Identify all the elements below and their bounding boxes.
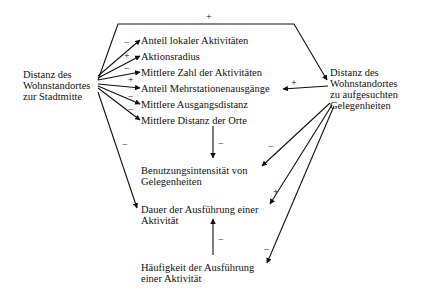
edge-sign: − (218, 234, 224, 245)
edge-sign: + (273, 186, 279, 197)
edge-sign: + (124, 50, 130, 61)
edge-sign: − (122, 139, 128, 150)
edge-dist_center-to-list-1 (98, 56, 140, 78)
diagram-canvas: +−+−+−−+−−−+−− Distanz des Wohnstandorte… (0, 0, 426, 295)
list-item-local-activities: Anteil lokaler Aktivitäten (141, 35, 248, 46)
list-item-multi-stop-share: Anteil Mehrstationenausgänge (141, 83, 270, 94)
edge-sign: − (128, 91, 134, 102)
edge-dist_opps-to-list-3 (283, 86, 328, 89)
list-item-avg-place-distance: Mittlere Distanz der Orte (141, 115, 247, 126)
edge-dist_opps-to-usage (262, 103, 330, 166)
edge-sign: − (218, 138, 224, 149)
node-activity-duration: Dauer der Ausführung einer Aktivität (141, 204, 259, 226)
edge-sign: − (264, 244, 270, 255)
edge-sign: − (124, 63, 130, 74)
edge-dist_center-to-list-4 (98, 86, 140, 104)
edge-dist_center-to-list-2 (98, 72, 140, 80)
edge-dist_center-to-list-5 (98, 88, 140, 120)
edge-dist_center-to-list-0 (98, 40, 140, 76)
edge-dist_opps-to-duration (270, 105, 332, 204)
edge-sign: + (291, 77, 297, 88)
list-item-avg-trip-distance: Mittlere Ausgangsdistanz (141, 99, 248, 110)
edge-dist_opps-to-frequency (267, 106, 334, 263)
node-distance-to-opportunities: Distanz des Wohnstandortes zu aufgesucht… (330, 67, 398, 111)
edge-sign: − (268, 141, 274, 152)
list-item-avg-activities: Mittlere Zahl der Aktivitäten (141, 67, 262, 78)
list-item-action-radius: Aktionsradius (141, 51, 200, 62)
edge-sign: + (206, 11, 212, 22)
edge-dist_center-to-list-3 (98, 84, 140, 88)
edge-sign: − (124, 37, 130, 48)
edge-sign: − (128, 104, 134, 115)
node-distance-to-center: Distanz des Wohnstandortes zur Stadtmitt… (23, 69, 90, 102)
edge-sign: + (128, 74, 134, 85)
node-usage-intensity: Benutzungsintensität von Gelegenheiten (141, 165, 247, 187)
node-activity-frequency: Häufigkeit der Ausführung einer Aktivitä… (141, 262, 254, 284)
